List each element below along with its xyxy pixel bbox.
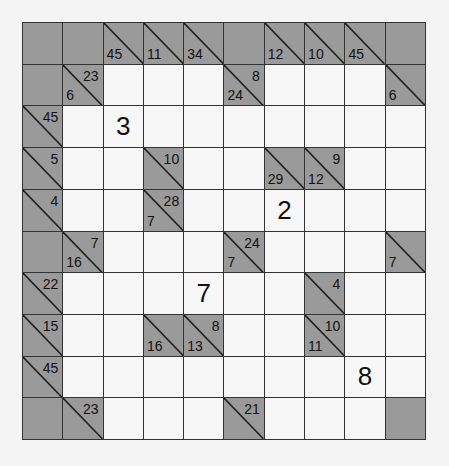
clue-cell: 11 <box>144 23 183 64</box>
answer-cell[interactable] <box>184 148 223 189</box>
blocked-cell <box>386 398 425 439</box>
answer-cell[interactable] <box>265 315 304 356</box>
down-sum: 7 <box>227 255 235 269</box>
answer-cell[interactable]: 8 <box>345 357 384 398</box>
given-digit: 2 <box>265 190 304 231</box>
answer-cell[interactable] <box>345 190 384 231</box>
answer-cell[interactable] <box>104 65 143 106</box>
answer-cell[interactable] <box>305 357 344 398</box>
answer-cell[interactable] <box>63 315 102 356</box>
down-sum: 10 <box>308 47 324 61</box>
across-sum: 22 <box>43 277 59 291</box>
answer-cell[interactable] <box>224 106 263 147</box>
down-sum: 45 <box>348 47 364 61</box>
answer-cell[interactable] <box>265 357 304 398</box>
answer-cell[interactable] <box>63 106 102 147</box>
answer-cell[interactable] <box>144 357 183 398</box>
answer-cell[interactable] <box>104 232 143 273</box>
answer-cell[interactable] <box>144 106 183 147</box>
answer-cell[interactable] <box>305 190 344 231</box>
answer-cell[interactable] <box>63 273 102 314</box>
clue-cell: 4 <box>23 190 62 231</box>
answer-cell[interactable] <box>345 106 384 147</box>
answer-cell[interactable] <box>345 315 384 356</box>
clue-cell: 4 <box>305 273 344 314</box>
answer-cell[interactable] <box>265 65 304 106</box>
answer-cell[interactable] <box>144 398 183 439</box>
answer-cell[interactable] <box>104 315 143 356</box>
clue-cell: 813 <box>184 315 223 356</box>
answer-cell[interactable] <box>345 273 384 314</box>
down-sum: 7 <box>389 255 397 269</box>
answer-cell[interactable] <box>184 398 223 439</box>
clue-cell: 45 <box>23 106 62 147</box>
answer-cell[interactable] <box>305 232 344 273</box>
answer-cell[interactable] <box>345 232 384 273</box>
answer-cell[interactable] <box>265 398 304 439</box>
clue-cell: 16 <box>144 315 183 356</box>
given-digit: 8 <box>345 357 384 398</box>
answer-cell[interactable] <box>184 232 223 273</box>
answer-cell[interactable] <box>104 273 143 314</box>
answer-cell[interactable] <box>63 148 102 189</box>
answer-cell[interactable] <box>265 106 304 147</box>
answer-cell[interactable] <box>104 398 143 439</box>
answer-cell[interactable] <box>104 357 143 398</box>
down-sum: 13 <box>187 339 203 353</box>
clue-cell: 1011 <box>305 315 344 356</box>
blocked-cell <box>23 398 62 439</box>
answer-cell[interactable] <box>144 273 183 314</box>
answer-cell[interactable] <box>345 65 384 106</box>
clue-cell: 22 <box>23 273 62 314</box>
across-sum: 4 <box>51 194 59 208</box>
clue-cell: 45 <box>104 23 143 64</box>
across-sum: 28 <box>164 194 180 208</box>
answer-cell[interactable] <box>184 65 223 106</box>
answer-cell[interactable] <box>184 106 223 147</box>
answer-cell[interactable] <box>184 357 223 398</box>
answer-cell[interactable] <box>144 232 183 273</box>
answer-cell[interactable] <box>63 357 102 398</box>
clue-cell: 6 <box>386 65 425 106</box>
blocked-cell <box>23 23 62 64</box>
answer-cell[interactable] <box>224 357 263 398</box>
answer-cell[interactable] <box>305 398 344 439</box>
answer-cell[interactable] <box>224 315 263 356</box>
answer-cell[interactable] <box>63 190 102 231</box>
answer-cell[interactable] <box>345 398 384 439</box>
clue-cell: 23 <box>63 398 102 439</box>
answer-cell[interactable]: 7 <box>184 273 223 314</box>
clue-cell: 12 <box>265 23 304 64</box>
blocked-cell <box>23 65 62 106</box>
down-sum: 12 <box>308 172 324 186</box>
down-sum: 7 <box>147 214 155 228</box>
answer-cell[interactable] <box>386 148 425 189</box>
answer-cell[interactable] <box>144 65 183 106</box>
down-sum: 16 <box>66 255 82 269</box>
answer-cell[interactable] <box>345 148 384 189</box>
clue-cell: 287 <box>144 190 183 231</box>
answer-cell[interactable] <box>386 357 425 398</box>
answer-cell[interactable] <box>386 106 425 147</box>
answer-cell[interactable]: 2 <box>265 190 304 231</box>
answer-cell[interactable] <box>265 232 304 273</box>
answer-cell[interactable] <box>386 273 425 314</box>
answer-cell[interactable] <box>224 273 263 314</box>
answer-cell[interactable] <box>224 190 263 231</box>
answer-cell[interactable]: 3 <box>104 106 143 147</box>
blocked-cell <box>63 23 102 64</box>
answer-cell[interactable] <box>224 148 263 189</box>
down-sum: 11 <box>147 47 162 61</box>
answer-cell[interactable] <box>305 106 344 147</box>
answer-cell[interactable] <box>104 148 143 189</box>
answer-cell[interactable] <box>184 190 223 231</box>
answer-cell[interactable] <box>265 273 304 314</box>
answer-cell[interactable] <box>305 65 344 106</box>
answer-cell[interactable] <box>104 190 143 231</box>
answer-cell[interactable] <box>386 315 425 356</box>
answer-cell[interactable] <box>386 190 425 231</box>
clue-cell: 34 <box>184 23 223 64</box>
down-sum: 29 <box>268 172 284 186</box>
across-sum: 8 <box>252 69 260 83</box>
across-sum: 9 <box>333 152 341 166</box>
